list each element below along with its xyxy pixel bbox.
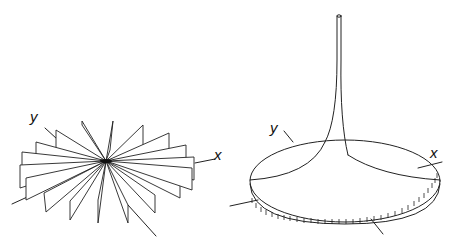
spike-right xyxy=(341,16,348,155)
spike-left xyxy=(325,16,337,142)
y-axis-label: y xyxy=(29,108,39,125)
x-axis-label: x xyxy=(213,146,222,163)
x-axis-front xyxy=(195,159,215,163)
y-axis-front xyxy=(371,219,383,234)
x-axis-label: x xyxy=(429,144,438,161)
spike-tip xyxy=(337,15,341,17)
y-axis-back xyxy=(284,131,293,142)
diagram-canvas: y x xyxy=(0,0,453,249)
spike-figure: y x xyxy=(230,15,442,234)
y-axis-back xyxy=(45,128,57,139)
disk-edge xyxy=(250,184,440,224)
fan-figure: y x xyxy=(12,108,222,236)
x-axis-back xyxy=(230,200,258,206)
section-curve-right xyxy=(348,155,440,180)
disk-top xyxy=(250,140,440,222)
y-axis-label: y xyxy=(269,119,279,136)
center-point xyxy=(100,159,112,163)
